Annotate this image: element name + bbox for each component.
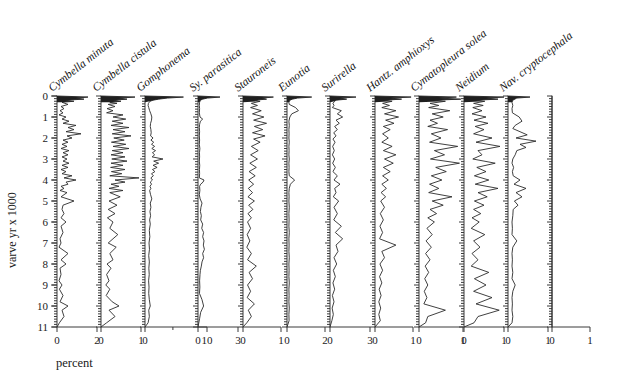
x-axis-label: percent xyxy=(56,356,93,370)
x-tick-label: 10 xyxy=(202,334,214,346)
x-tick-label: 0 xyxy=(416,334,422,346)
x-tick-label: 0 xyxy=(142,334,148,346)
y-tick-label-5: 5 xyxy=(43,195,49,207)
x-tick-label: 0 xyxy=(98,334,104,346)
y-tick-label-10: 10 xyxy=(37,300,49,312)
y-tick-label-2: 2 xyxy=(43,132,49,144)
x-tick-label: 0 xyxy=(284,334,290,346)
x-tick-label: 1 xyxy=(410,334,416,346)
x-tick-label: 0 xyxy=(549,334,555,346)
x-tick-label: 0 xyxy=(461,334,467,346)
y-tick-label-7: 7 xyxy=(43,237,49,249)
y-tick-label-0: 0 xyxy=(43,90,49,102)
x-tick-label: 0 xyxy=(505,334,511,346)
x-tick-label: 0 xyxy=(54,334,60,346)
x-tick-label: 0 xyxy=(240,334,246,346)
x-tick-label: 1 xyxy=(587,334,593,346)
stratigraphic-diatom-chart: 01234567891011 0201010030102030101010101… xyxy=(0,0,634,375)
y-tick-label-3: 3 xyxy=(43,153,49,165)
y-tick-label-6: 6 xyxy=(43,216,49,228)
y-tick-label-11: 11 xyxy=(37,321,48,333)
y-tick-label-4: 4 xyxy=(43,174,49,186)
x-tick-label: 0 xyxy=(372,334,378,346)
x-tick-label: 0 xyxy=(195,334,201,346)
x-tick-label: 1 xyxy=(278,334,284,346)
y-tick-label-8: 8 xyxy=(43,258,49,270)
y-tick-label-9: 9 xyxy=(43,279,49,291)
figure-root: 01234567891011 0201010030102030101010101… xyxy=(0,0,634,375)
y-axis-label: varve yr x 1000 xyxy=(5,192,19,268)
x-tick-label: 0 xyxy=(327,334,333,346)
y-tick-label-1: 1 xyxy=(43,111,49,123)
